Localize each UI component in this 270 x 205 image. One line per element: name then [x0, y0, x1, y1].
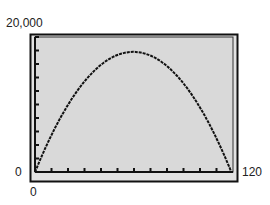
- plot-area: [35, 37, 233, 172]
- x-max-label: 120: [242, 166, 262, 178]
- x-min-label: 0: [30, 186, 37, 198]
- y-min-label: 0: [15, 166, 22, 178]
- chart-canvas: [0, 0, 270, 205]
- y-max-label: 20,000: [6, 17, 43, 29]
